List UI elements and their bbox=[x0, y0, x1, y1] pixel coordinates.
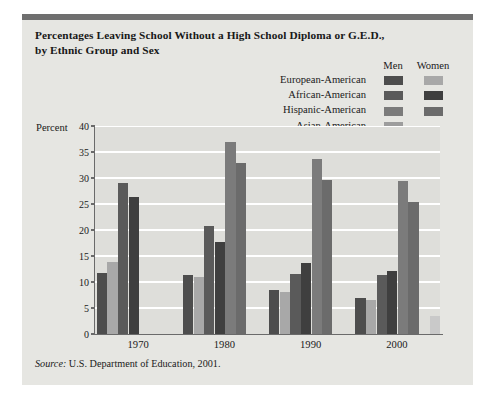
bar bbox=[269, 290, 279, 334]
y-axis-tick-mark bbox=[91, 281, 95, 282]
bar bbox=[366, 300, 376, 334]
y-axis-tick-mark bbox=[91, 151, 95, 152]
legend-row-hispanic-american: Hispanic-American bbox=[248, 102, 453, 117]
source-note: Source: U.S. Department of Education, 20… bbox=[35, 358, 221, 369]
x-axis-line bbox=[91, 334, 443, 335]
gridline bbox=[95, 151, 440, 152]
plot-area: 05101520253035401970198019902000 bbox=[95, 126, 440, 334]
gridline bbox=[95, 177, 440, 178]
bar bbox=[107, 262, 117, 334]
y-axis-tick-label: 0 bbox=[84, 329, 89, 340]
bar bbox=[408, 202, 418, 334]
legend-label-european-american: European-American bbox=[248, 72, 373, 87]
bar bbox=[387, 271, 397, 334]
y-axis-tick-label: 30 bbox=[79, 173, 89, 184]
bar bbox=[312, 159, 322, 334]
chart-figure: Percentages Leaving School Without a Hig… bbox=[22, 14, 473, 385]
legend-header-spacer bbox=[248, 60, 373, 72]
gridline bbox=[95, 203, 440, 204]
bar bbox=[301, 263, 311, 334]
bar bbox=[398, 181, 408, 334]
legend-row-european-american: European-American bbox=[248, 72, 453, 87]
legend-header-men: Men bbox=[373, 60, 413, 72]
source-text: U.S. Department of Education, 2001. bbox=[66, 358, 220, 369]
legend-label-african-american: African-American bbox=[248, 87, 373, 102]
gridline bbox=[95, 229, 440, 230]
page-title: Percentages Leaving School Without a Hig… bbox=[35, 28, 455, 57]
plot-canvas bbox=[95, 126, 440, 334]
y-axis-tick-mark bbox=[91, 307, 95, 308]
bar bbox=[204, 226, 214, 334]
legend-table: Men Women European-American African-Amer… bbox=[248, 60, 453, 133]
y-axis-tick-mark bbox=[91, 229, 95, 230]
bar bbox=[430, 316, 440, 334]
legend-swatch-european-american-women bbox=[413, 72, 453, 87]
legend-header-women: Women bbox=[413, 60, 453, 72]
bar bbox=[225, 142, 235, 334]
y-axis-tick-mark bbox=[91, 255, 95, 256]
y-axis-tick-label: 35 bbox=[79, 147, 89, 158]
y-axis-tick-label: 5 bbox=[84, 303, 89, 314]
x-axis-tick-label: 1970 bbox=[128, 339, 149, 350]
legend-swatch-european-american-men bbox=[373, 72, 413, 87]
top-rule bbox=[22, 14, 473, 20]
legend-swatch-african-american-women bbox=[413, 87, 453, 102]
gridline bbox=[95, 255, 440, 256]
legend-header-row: Men Women bbox=[248, 60, 453, 72]
source-prefix: Source: bbox=[35, 358, 66, 369]
bar bbox=[215, 242, 225, 334]
legend-swatch-hispanic-american-men bbox=[373, 102, 413, 117]
legend-swatch-hispanic-american-women bbox=[413, 102, 453, 117]
bar bbox=[194, 277, 204, 334]
bar bbox=[290, 274, 300, 334]
title-line-2: by Ethnic Group and Sex bbox=[35, 43, 455, 58]
x-axis-tick-label: 1990 bbox=[300, 339, 321, 350]
y-axis-tick-label: 15 bbox=[79, 251, 89, 262]
y-axis-tick-label: 40 bbox=[79, 121, 89, 132]
bar bbox=[355, 298, 365, 334]
y-axis-tick-label: 20 bbox=[79, 225, 89, 236]
y-axis-tick-label: 25 bbox=[79, 199, 89, 210]
legend-swatch-african-american-men bbox=[373, 87, 413, 102]
legend-label-hispanic-american: Hispanic-American bbox=[248, 102, 373, 117]
gridline bbox=[95, 126, 440, 127]
y-axis-tick-mark bbox=[91, 177, 95, 178]
bar bbox=[377, 275, 387, 334]
y-axis-label: Percent bbox=[36, 122, 68, 133]
y-axis-tick-label: 10 bbox=[79, 277, 89, 288]
bar bbox=[129, 197, 139, 334]
y-axis-tick-mark bbox=[91, 203, 95, 204]
chart-legend: Men Women European-American African-Amer… bbox=[248, 60, 453, 133]
title-line-1: Percentages Leaving School Without a Hig… bbox=[35, 28, 455, 43]
bar bbox=[236, 163, 246, 334]
y-axis-tick-mark bbox=[91, 333, 95, 334]
bar bbox=[97, 273, 107, 334]
bar bbox=[280, 292, 290, 334]
x-axis-tick-label: 2000 bbox=[386, 339, 407, 350]
y-axis-tick-mark bbox=[91, 125, 95, 126]
bar bbox=[118, 183, 128, 334]
bar bbox=[183, 275, 193, 334]
legend-row-african-american: African-American bbox=[248, 87, 453, 102]
x-axis-tick-label: 1980 bbox=[214, 339, 235, 350]
bar bbox=[322, 180, 332, 334]
